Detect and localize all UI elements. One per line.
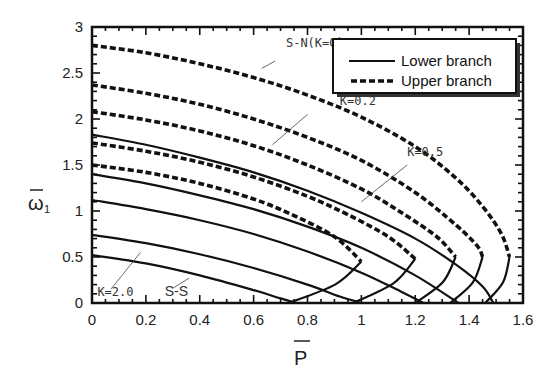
annotation-label: K=0.5 <box>407 145 443 159</box>
legend-lower-branch: Lower branch <box>401 52 492 69</box>
y-tick-label: 1.5 <box>62 156 83 173</box>
y-tick-label: 0 <box>75 294 83 311</box>
y-tick-label: 2.5 <box>62 64 83 81</box>
y-tick-label: 0.5 <box>62 248 83 265</box>
y-axis-label: ω 1 <box>28 190 50 215</box>
lower-branch-curve-2 <box>92 174 458 303</box>
legend-upper-branch: Upper branch <box>401 72 492 89</box>
x-tick-label: 1.6 <box>513 311 534 328</box>
y-tick-label: 3 <box>75 18 83 35</box>
x-tick-label: 0.4 <box>189 311 210 328</box>
annotation-label: K=2.0 <box>97 285 133 299</box>
x-tick-label: 0.8 <box>297 311 318 328</box>
upper-branch-curve-2 <box>92 85 483 257</box>
x-tick-label: 1.2 <box>405 311 426 328</box>
x-tick-label: 0.6 <box>243 311 264 328</box>
legend: Lower branch Upper branch <box>333 39 520 97</box>
upper-branch-curve-5 <box>92 165 361 262</box>
annotation-leader <box>272 114 307 144</box>
annotation-leader <box>262 61 275 68</box>
x-axis-label-p: P <box>294 347 307 369</box>
chart: 00.20.40.60.811.21.41.600.511.522.53 S-N… <box>0 0 554 387</box>
lower-branch-curve-3 <box>92 200 423 303</box>
x-tick-label: 0.2 <box>135 311 156 328</box>
x-tick-label: 1 <box>357 311 365 328</box>
x-axis-label: P <box>294 341 310 369</box>
x-tick-label: 0 <box>88 311 96 328</box>
x-tick-label: 1.4 <box>459 311 480 328</box>
fold-segment-curve-4 <box>353 259 415 303</box>
y-axis-label-omega: ω <box>28 192 44 214</box>
annotation-label: S-S <box>165 283 188 299</box>
y-axis-label-subscript: 1 <box>44 203 50 215</box>
y-tick-label: 1 <box>75 202 83 219</box>
y-tick-label: 2 <box>75 110 83 127</box>
